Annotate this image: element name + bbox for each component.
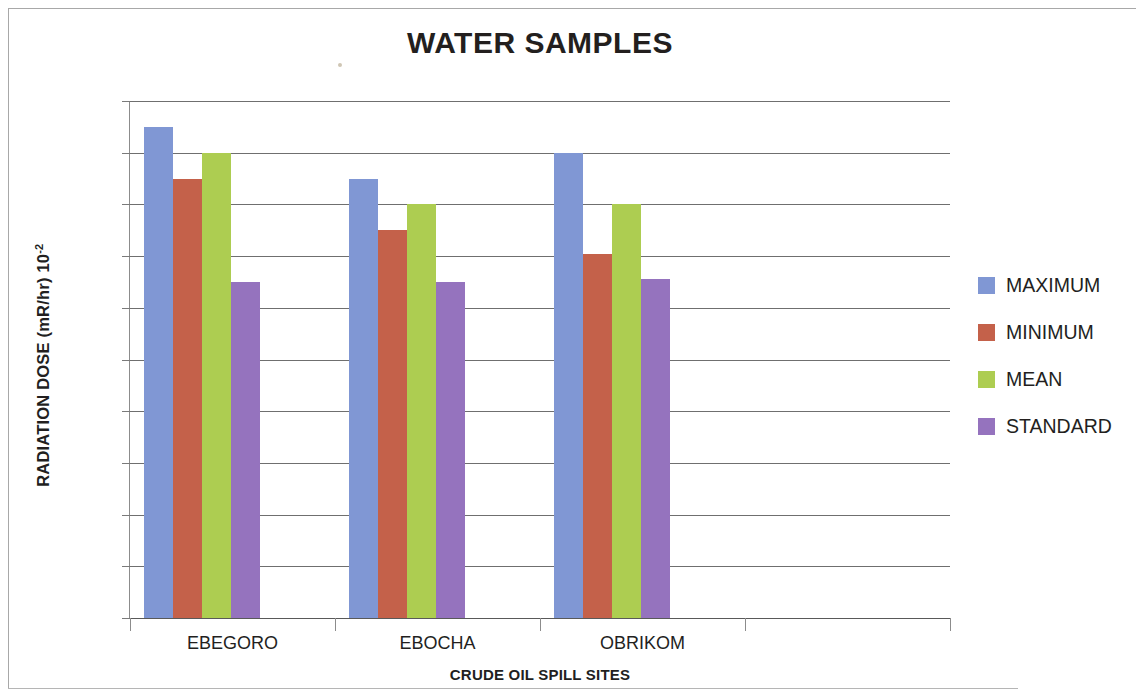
bar (378, 230, 407, 618)
bar (144, 127, 173, 618)
legend-item[interactable]: MINIMUM (978, 309, 1112, 356)
x-axis-title: CRUDE OIL SPILL SITES (130, 666, 950, 683)
y-axis-tick (122, 463, 130, 464)
gridline (130, 256, 950, 257)
bar (641, 279, 670, 618)
y-axis-tick (122, 515, 130, 516)
legend-item-label: MINIMUM (1006, 321, 1094, 344)
y-axis-tick (122, 308, 130, 309)
y-axis-tick (122, 618, 130, 619)
border-frame-top (8, 8, 1136, 9)
bar (583, 254, 612, 618)
y-axis-tick (122, 101, 130, 102)
legend-item-label: MAXIMUM (1006, 274, 1100, 297)
x-axis-tick (130, 618, 131, 631)
gridline (130, 153, 950, 154)
x-axis-tick (950, 618, 951, 631)
y-axis-tick (122, 360, 130, 361)
y-axis-tick (122, 566, 130, 567)
bar (407, 204, 436, 618)
plot-area (130, 101, 950, 618)
border-frame-bottom (8, 688, 1018, 689)
y-axis-tick (122, 411, 130, 412)
x-axis-tick (540, 618, 541, 631)
y-axis-tick (122, 204, 130, 205)
legend-swatch-icon (978, 324, 995, 341)
legend-item-label: MEAN (1006, 368, 1062, 391)
bar (349, 179, 378, 618)
y-axis-tick (122, 256, 130, 257)
legend-item[interactable]: MEAN (978, 356, 1112, 403)
legend-swatch-icon (978, 418, 995, 435)
y-axis-title-exponent: -2 (33, 244, 45, 254)
chart-legend: MAXIMUMMINIMUMMEANSTANDARD (978, 262, 1112, 450)
gridline (130, 101, 950, 102)
legend-swatch-icon (978, 277, 995, 294)
border-frame-left (8, 8, 9, 689)
legend-item[interactable]: MAXIMUM (978, 262, 1112, 309)
x-axis-tick-label: EBEGORO (130, 633, 335, 654)
x-axis-tick-label: EBOCHA (335, 633, 540, 654)
chart-title: WATER SAMPLES (130, 26, 950, 60)
bar (202, 153, 231, 618)
y-axis-title-text: RADIATION DOSE (mR/hr) 10 (34, 254, 52, 487)
gridline (130, 204, 950, 205)
y-axis-title: RADIATION DOSE (mR/hr) 10-2 (33, 155, 54, 575)
x-axis-tick-label: OBRIKOM (540, 633, 745, 654)
bar (612, 204, 641, 618)
legend-swatch-icon (978, 371, 995, 388)
x-axis-tick (335, 618, 336, 631)
legend-item[interactable]: STANDARD (978, 403, 1112, 450)
scan-artifact-speck (338, 63, 342, 67)
chart-figure: WATER SAMPLES RADIATION DOSE (mR/hr) 10-… (0, 0, 1136, 697)
bar (231, 282, 260, 618)
x-axis-tick (745, 618, 746, 631)
y-axis-tick (122, 153, 130, 154)
bar (554, 153, 583, 618)
bar (173, 179, 202, 618)
bar (436, 282, 465, 618)
legend-item-label: STANDARD (1006, 415, 1112, 438)
